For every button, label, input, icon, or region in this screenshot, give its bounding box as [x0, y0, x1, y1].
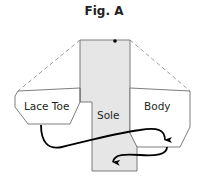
origin-dot [113, 39, 117, 43]
fold-line-right [130, 40, 190, 91]
sole-label: Sole [97, 109, 119, 121]
body-label: Body [144, 100, 171, 112]
sole-piece [80, 40, 137, 171]
shoe-pattern-diagram: Lace Toe Sole Body [0, 0, 208, 179]
lace-toe-label: Lace Toe [24, 100, 69, 112]
fold-line-left [18, 40, 80, 91]
body-piece [130, 88, 190, 147]
